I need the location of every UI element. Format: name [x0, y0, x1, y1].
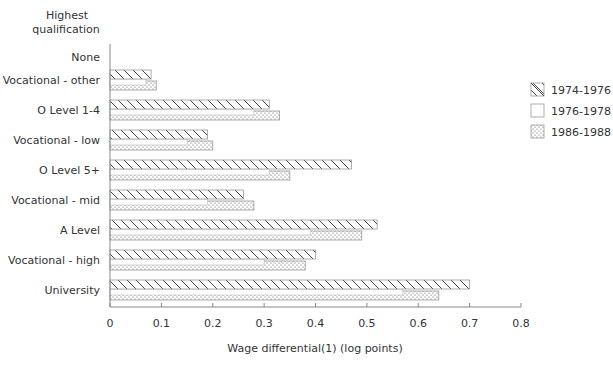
bar-1976-1978	[110, 109, 254, 115]
legend-label: 1976-1978	[551, 105, 611, 118]
x-tick-label: 0.6	[410, 317, 428, 330]
bars	[110, 70, 470, 300]
x-tick-label: 0.1	[153, 317, 171, 330]
bar-1974-1976	[110, 250, 316, 259]
legend-label: 1986-1988	[551, 126, 611, 139]
category-label: Vocational - other	[3, 74, 101, 87]
x-tick-label: 0.5	[358, 317, 376, 330]
bar-1974-1976	[110, 160, 351, 169]
x-tick-label: 0.7	[461, 317, 479, 330]
bar-1976-1978	[110, 169, 269, 175]
category-label: Vocational - low	[13, 134, 100, 147]
category-labels: NoneVocational - otherO Level 1-4Vocatio…	[3, 51, 101, 297]
yaxis-title-line1: Highest	[46, 9, 89, 22]
category-label: O Level 1-4	[37, 104, 100, 117]
xaxis-title: Wage differential(1) (log points)	[227, 342, 402, 355]
bar-1976-1978	[110, 259, 264, 265]
x-tick-label: 0.4	[307, 317, 325, 330]
legend-label: 1974-1976	[551, 84, 611, 97]
category-label: Vocational - high	[8, 254, 100, 267]
yaxis-title-line2: qualification	[32, 23, 100, 36]
bar-1974-1976	[110, 100, 269, 109]
x-tick-label: 0.8	[512, 317, 530, 330]
bar-1974-1976	[110, 280, 470, 289]
category-label: O Level 5+	[39, 164, 100, 177]
bar-1976-1978	[110, 139, 187, 145]
wage-differential-chart: Highest qualification NoneVocational - o…	[0, 0, 613, 367]
bar-1976-1978	[110, 289, 403, 295]
x-tick-label: 0.2	[204, 317, 222, 330]
bar-1974-1976	[110, 130, 208, 139]
legend-swatch-dotted-icon	[531, 125, 544, 138]
bar-1976-1978	[110, 199, 208, 205]
bar-1974-1976	[110, 190, 244, 199]
category-label: University	[45, 284, 101, 297]
bar-1974-1976	[110, 220, 377, 229]
legend-swatch-plain-icon	[531, 104, 544, 117]
category-label: Vocational - mid	[11, 194, 100, 207]
category-label: A Level	[60, 224, 100, 237]
bar-1976-1978	[110, 229, 310, 235]
bar-1974-1976	[110, 70, 151, 79]
category-label: None	[71, 51, 100, 64]
x-tick-label: 0	[107, 317, 114, 330]
legend: 1974-19761976-19781986-1988	[531, 83, 611, 139]
x-tick-label: 0.3	[255, 317, 273, 330]
bar-1976-1978	[110, 79, 146, 85]
